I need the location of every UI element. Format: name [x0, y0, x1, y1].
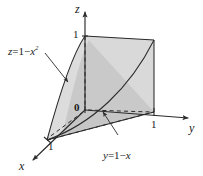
- z-axis-label: z: [75, 3, 80, 15]
- y-axis-tick-label: 1: [151, 119, 157, 130]
- z-axis-tick-label: 1: [73, 29, 79, 40]
- x-axis-label: x: [19, 160, 24, 172]
- eq0-exponent: 2: [35, 44, 38, 51]
- y-axis-label: y: [189, 122, 194, 134]
- equation-label-parabolic-cylinder: z=1−x2: [8, 45, 39, 57]
- leader-parabolic-cylinder: [45, 53, 68, 82]
- solid-surfaces: [47, 36, 154, 140]
- x-axis-tick-label: 1: [48, 141, 54, 152]
- origin-label: 0: [74, 102, 80, 113]
- eq1-rhs-var: x: [126, 149, 131, 161]
- equation-label-plane: y=1−x: [103, 150, 131, 161]
- solid-region-figure: [0, 0, 203, 176]
